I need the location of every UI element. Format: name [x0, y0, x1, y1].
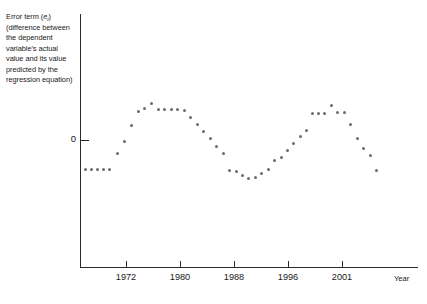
data-point	[183, 109, 186, 112]
data-point	[247, 177, 250, 180]
data-point	[108, 168, 111, 171]
data-point	[311, 112, 314, 115]
data-point	[189, 116, 192, 119]
data-point	[305, 129, 308, 132]
data-point	[228, 169, 231, 172]
data-point	[90, 168, 93, 171]
data-point	[102, 168, 105, 171]
data-point	[375, 169, 378, 172]
data-point	[215, 145, 218, 148]
data-point	[336, 111, 339, 114]
data-point	[137, 110, 140, 113]
data-point	[260, 172, 263, 175]
data-point	[130, 124, 133, 127]
data-point	[369, 154, 372, 157]
data-point	[280, 156, 283, 159]
data-point	[349, 123, 352, 126]
data-point	[163, 108, 166, 111]
data-point	[116, 152, 119, 155]
data-point	[170, 108, 173, 111]
chart-canvas: Error term (ei) (difference between the …	[0, 0, 427, 304]
data-point	[356, 137, 359, 140]
data-point	[84, 168, 87, 171]
data-point	[123, 140, 126, 143]
data-point	[292, 142, 295, 145]
data-point	[362, 147, 365, 150]
data-point	[323, 112, 326, 115]
data-point	[267, 168, 270, 171]
data-point	[150, 102, 153, 105]
x-axis-title: Year	[394, 274, 409, 283]
data-point	[176, 108, 179, 111]
data-point	[299, 135, 302, 138]
data-point	[317, 112, 320, 115]
data-point	[330, 104, 333, 107]
data-point	[254, 176, 257, 179]
data-point	[209, 137, 212, 140]
data-point	[157, 108, 160, 111]
data-point	[241, 174, 244, 177]
scatter-series	[0, 0, 427, 304]
data-point	[235, 170, 238, 173]
data-point	[196, 123, 199, 126]
data-point	[273, 159, 276, 162]
data-point	[222, 152, 225, 155]
data-point	[202, 130, 205, 133]
data-point	[143, 107, 146, 110]
data-point	[343, 111, 346, 114]
data-point	[286, 149, 289, 152]
data-point	[96, 168, 99, 171]
